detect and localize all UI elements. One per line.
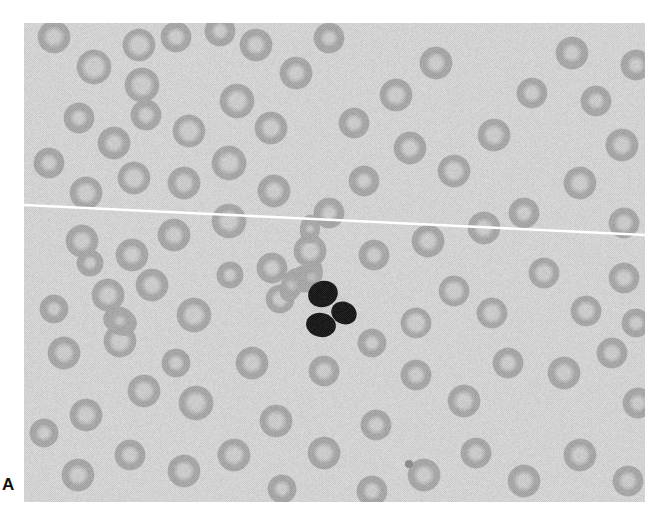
micrograph-canvas	[24, 23, 645, 502]
figure-root: A	[0, 0, 659, 522]
blood-smear-micrograph	[24, 23, 645, 502]
panel-label: A	[2, 476, 14, 493]
